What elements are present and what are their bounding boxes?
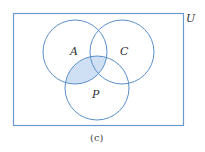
universe-label: U	[186, 12, 196, 25]
set-p-label: P	[91, 88, 100, 101]
set-a-label: A	[69, 45, 78, 58]
caption: (c)	[90, 132, 104, 143]
set-c-label: C	[120, 45, 129, 58]
venn-diagram: A C P U (c)	[0, 0, 205, 152]
